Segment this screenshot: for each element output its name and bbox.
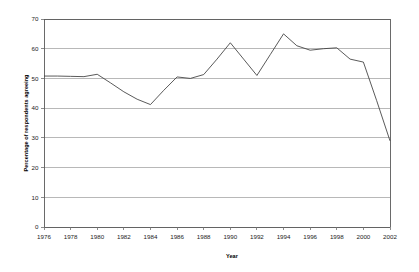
- x-tick-label-1988: 1988: [197, 233, 211, 240]
- y-tick-label-50: 50: [32, 75, 39, 82]
- x-tick-label-1978: 1978: [64, 233, 78, 240]
- x-tick-label-1980: 1980: [90, 233, 104, 240]
- x-tick-label-1994: 1994: [277, 233, 291, 240]
- chart-container: 010203040506070 197619781980198219841986…: [0, 0, 419, 272]
- gridlines-group: [44, 19, 390, 227]
- y-axis-title: Percentage of respondents agreeing: [23, 74, 29, 172]
- y-tick-label-10: 10: [32, 194, 39, 201]
- y-tick-label-40: 40: [32, 104, 39, 111]
- x-tick-label-1982: 1982: [117, 233, 131, 240]
- y-tick-label-70: 70: [32, 15, 39, 22]
- y-tick-label-60: 60: [32, 45, 39, 52]
- x-tick-label-1990: 1990: [223, 233, 237, 240]
- y-axis-ticks-group: 010203040506070: [32, 15, 44, 230]
- x-tick-label-1998: 1998: [330, 233, 344, 240]
- data-series-group: [44, 34, 390, 141]
- x-tick-label-1992: 1992: [250, 233, 264, 240]
- x-axis-title: Year: [226, 253, 239, 259]
- x-tick-label-1984: 1984: [144, 233, 158, 240]
- plot-frame: [44, 19, 390, 227]
- y-tick-label-30: 30: [32, 134, 39, 141]
- x-axis-ticks-group: 1976197819801982198419861988199019921994…: [37, 227, 397, 240]
- x-tick-label-1976: 1976: [37, 233, 51, 240]
- series-line-0: [44, 34, 390, 141]
- x-tick-label-2002: 2002: [383, 233, 397, 240]
- line-chart: 010203040506070 197619781980198219841986…: [0, 0, 419, 272]
- x-tick-label-2000: 2000: [357, 233, 371, 240]
- y-tick-label-0: 0: [35, 223, 39, 230]
- x-tick-label-1996: 1996: [303, 233, 317, 240]
- x-tick-label-1986: 1986: [170, 233, 184, 240]
- y-tick-label-20: 20: [32, 164, 39, 171]
